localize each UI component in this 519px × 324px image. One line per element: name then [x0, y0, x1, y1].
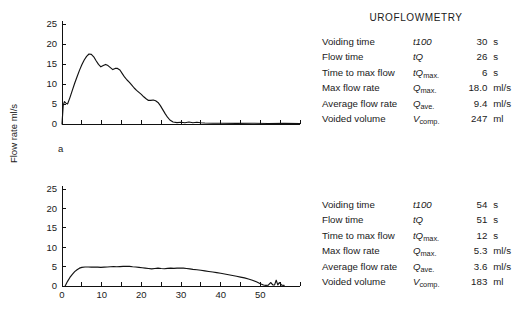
y-tick-label: 20	[46, 203, 57, 214]
report-value: 30	[456, 36, 493, 47]
report-parameter-label: Max flow rate	[322, 245, 413, 256]
flow-rate-curve	[62, 54, 300, 124]
report-symbol: Qave.	[413, 98, 456, 109]
report-symbol: tQmax.	[413, 230, 456, 241]
report-value: 3.6	[456, 261, 493, 272]
report-symbol: tQmax.	[413, 67, 456, 78]
report-value: 247	[456, 113, 493, 124]
y-tick-label: 5	[52, 98, 57, 109]
y-tick-label: 0	[52, 280, 57, 291]
report-unit: s	[493, 199, 519, 210]
report-unit: s	[493, 36, 519, 47]
x-tick-label: 30	[176, 289, 187, 300]
x-tick-label: 0	[59, 289, 64, 300]
report-unit: ml/s	[493, 245, 519, 256]
report-parameter-label: Voided volume	[322, 276, 413, 287]
report-unit: ml/s	[493, 82, 519, 93]
uroflowmetry-figure: Flow rate ml/s 0510152025 a 051015202501…	[0, 0, 519, 324]
report-value: 18.0	[456, 82, 493, 93]
report-unit: s	[493, 214, 519, 225]
report-row: Voiding timet10054s	[322, 199, 519, 214]
y-tick-label: 15	[46, 222, 57, 233]
y-tick-label: 10	[46, 78, 57, 89]
y-tick-label: 25	[46, 183, 57, 194]
flow-curve-chart-b: 051015202501020304050	[0, 178, 310, 324]
y-tick-label: 0	[52, 118, 57, 129]
report-unit: ml/s	[493, 98, 519, 109]
report-symbol: tQ	[413, 214, 456, 225]
panel-label-a: a	[58, 143, 63, 154]
report-value: 26	[456, 51, 493, 62]
x-tick-label: 50	[255, 289, 266, 300]
report-row: Max flow rateQmax.5.3ml/s	[322, 245, 519, 260]
flow-curve-chart-a: 0510152025	[0, 10, 310, 160]
report-parameter-label: Flow time	[322, 51, 413, 62]
report-symbol: t100	[413, 199, 456, 210]
report-symbol: Vcomp.	[413, 113, 456, 124]
report-table-b: Voiding timet10054sFlow timetQ51sTime to…	[322, 199, 519, 291]
report-row: Average flow rateQave.3.6ml/s	[322, 261, 519, 276]
report-unit: s	[493, 67, 519, 78]
report-symbol: Vcomp.	[413, 276, 456, 287]
x-tick-label: 20	[136, 289, 147, 300]
report-value: 9.4	[456, 98, 493, 109]
chart-panel-b: 051015202501020304050 b s	[0, 178, 310, 324]
report-unit: ml	[493, 276, 519, 287]
report-row: Voiding timet10030s	[322, 36, 519, 51]
report-row: Max flow rateQmax.18.0ml/s	[322, 82, 519, 97]
report-row: Time to max flowtQmax.12s	[322, 230, 519, 245]
report-unit: ml	[493, 113, 519, 124]
x-tick-label: 10	[96, 289, 107, 300]
chart-panel-a: 0510152025 a	[0, 10, 310, 160]
y-tick-label: 25	[46, 18, 57, 29]
y-tick-label: 10	[46, 242, 57, 253]
report-symbol: tQ	[413, 51, 456, 62]
report-row: Time to max flowtQmax.6s	[322, 67, 519, 82]
report-parameter-label: Time to max flow	[322, 67, 413, 78]
report-parameter-label: Voiding time	[322, 36, 413, 47]
report-symbol: Qave.	[413, 261, 456, 272]
report-row: Flow timetQ51s	[322, 214, 519, 229]
report-unit: s	[493, 51, 519, 62]
report-value: 12	[456, 230, 493, 241]
report-symbol: Qmax.	[413, 82, 456, 93]
flow-rate-curve	[65, 266, 284, 286]
report-row: Voided volumeVcomp.183ml	[322, 276, 519, 291]
report-row: Flow timetQ26s	[322, 51, 519, 66]
report-symbol: Qmax.	[413, 245, 456, 256]
report-value: 6	[456, 67, 493, 78]
report-title: UROFLOWMETRY	[318, 12, 514, 23]
report-table-a: Voiding timet10030sFlow timetQ26sTime to…	[322, 36, 519, 128]
y-tick-label: 20	[46, 38, 57, 49]
report-parameter-label: Voiding time	[322, 199, 413, 210]
report-symbol: t100	[413, 36, 456, 47]
report-parameter-label: Time to max flow	[322, 230, 413, 241]
x-tick-label: 40	[215, 289, 226, 300]
report-value: 54	[456, 199, 493, 210]
report-parameter-label: Average flow rate	[322, 98, 413, 109]
report-parameter-label: Flow time	[322, 214, 413, 225]
report-value: 183	[456, 276, 493, 287]
report-unit: ml/s	[493, 261, 519, 272]
report-parameter-label: Average flow rate	[322, 261, 413, 272]
report-parameter-label: Voided volume	[322, 113, 413, 124]
report-parameter-label: Max flow rate	[322, 82, 413, 93]
report-row: Voided volumeVcomp.247ml	[322, 113, 519, 128]
report-row: Average flow rateQave.9.4ml/s	[322, 98, 519, 113]
report-value: 5.3	[456, 245, 493, 256]
y-tick-label: 15	[46, 58, 57, 69]
report-value: 51	[456, 214, 493, 225]
report-unit: s	[493, 230, 519, 241]
y-tick-label: 5	[52, 261, 57, 272]
